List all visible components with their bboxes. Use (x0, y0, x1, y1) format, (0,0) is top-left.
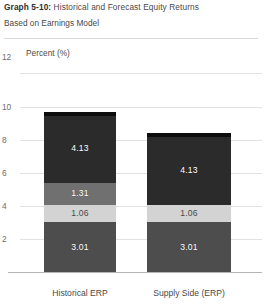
x-label-supply-side-erp: Supply Side (ERP) (147, 288, 231, 298)
y-tick-label-2: 2 (2, 235, 18, 243)
bar-historical-erp[interactable]: 3.011.061.314.13 (44, 44, 116, 272)
figure-graph-5-10: Graph 5-10: Historical and Forecast Equi… (0, 0, 264, 307)
bar-top-cap (147, 133, 231, 137)
bar-segment-base[interactable]: 3.01 (147, 222, 231, 272)
y-tick-label-8: 8 (2, 136, 18, 144)
bar-segment-mid[interactable]: 1.06 (44, 205, 116, 223)
bar-value-label: 3.01 (180, 243, 198, 252)
bar-segment-base[interactable]: 3.01 (44, 222, 116, 272)
bar-segment-upper[interactable]: 1.31 (44, 183, 116, 205)
bar-segment-premium[interactable]: 4.13 (44, 115, 116, 183)
plot-area: 24681012 3.011.061.314.133.011.064.13 (0, 44, 264, 274)
bar-segment-premium[interactable]: 4.13 (147, 136, 231, 204)
bar-value-label: 4.13 (71, 144, 89, 153)
figure-subtitle: Based on Earnings Model (4, 18, 99, 28)
x-label-historical-erp: Historical ERP (44, 288, 116, 298)
y-tick-label-12: 12 (2, 53, 18, 61)
y-tick-label-4: 4 (2, 202, 18, 210)
bar-value-label: 4.13 (180, 166, 198, 175)
bar-top-cap (44, 112, 116, 116)
bar-value-label: 1.06 (180, 209, 198, 218)
bar-supply-side-erp[interactable]: 3.011.064.13 (147, 44, 231, 272)
figure-title-text: Historical and Forecast Equity Returns (51, 2, 199, 12)
y-tick-label-10: 10 (2, 103, 18, 111)
y-tick-label-6: 6 (2, 169, 18, 177)
bar-value-label: 3.01 (71, 243, 89, 252)
header-divider (4, 38, 258, 39)
figure-title: Graph 5-10: Historical and Forecast Equi… (4, 2, 199, 12)
bar-value-label: 1.31 (71, 189, 89, 198)
bar-value-label: 1.06 (71, 209, 89, 218)
figure-title-number: Graph 5-10: (4, 2, 51, 12)
bar-segment-mid[interactable]: 1.06 (147, 205, 231, 223)
x-axis-baseline (8, 272, 262, 273)
